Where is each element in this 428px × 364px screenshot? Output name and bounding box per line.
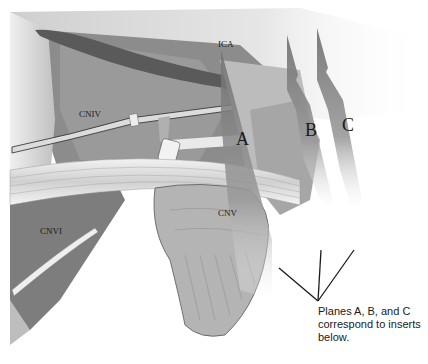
caption-line-3: below.	[318, 331, 428, 344]
plane-angle-indicator	[279, 250, 354, 301]
anatomical-illustration: ICA CNIV CNVI CNV A B C Planes A, B, and…	[0, 0, 428, 364]
caption-line-2: correspond to inserts	[318, 318, 428, 331]
label-cnv: CNV	[218, 209, 237, 218]
label-cniv: CNIV	[79, 110, 101, 119]
plane-label-c: C	[342, 116, 354, 134]
figure-caption: Planes A, B, and C correspond to inserts…	[318, 305, 428, 344]
label-cnvi: CNVI	[40, 227, 62, 236]
plane-label-b: B	[305, 121, 317, 139]
caption-line-1: Planes A, B, and C	[318, 305, 428, 318]
plane-label-a: A	[236, 130, 249, 148]
label-ica: ICA	[218, 40, 234, 49]
